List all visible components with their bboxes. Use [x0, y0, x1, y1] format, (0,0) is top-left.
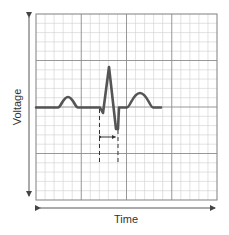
y-axis-label: Voltage	[11, 89, 23, 126]
ecg-trace	[36, 67, 161, 129]
x-axis-label: Time	[114, 213, 138, 225]
axes	[29, 17, 215, 208]
ecg-waveform	[36, 67, 161, 129]
ecg-diagram: Voltage Time	[0, 0, 229, 235]
